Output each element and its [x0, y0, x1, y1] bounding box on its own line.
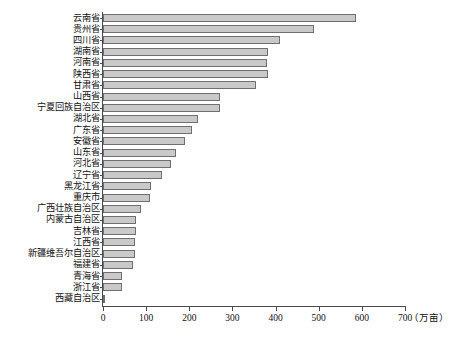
horizontal-bar-chart: 云南省贵州省四川省湖南省河南省陕西省甘肃省山西省宁夏回族自治区湖北省广东省安徽省… — [0, 0, 452, 344]
bar — [103, 205, 141, 213]
category-label: 甘肃省 — [73, 81, 100, 90]
category-label: 重庆市 — [73, 193, 100, 202]
bar — [103, 238, 135, 246]
x-axis-tick-label: 0 — [83, 313, 123, 323]
bar — [103, 126, 192, 134]
y-axis-tick — [100, 29, 103, 30]
y-axis-tick — [100, 242, 103, 243]
category-label: 河南省 — [73, 58, 100, 67]
x-axis-tick — [405, 307, 406, 311]
x-axis-tick — [362, 307, 363, 311]
category-label: 贵州省 — [73, 25, 100, 34]
x-axis-tick — [276, 307, 277, 311]
bar — [103, 137, 185, 145]
category-label: 湖南省 — [73, 47, 100, 56]
bar — [103, 81, 256, 89]
y-axis-tick — [100, 265, 103, 266]
y-axis-tick — [100, 97, 103, 98]
bar — [103, 182, 151, 190]
bar — [103, 104, 220, 112]
y-axis-tick — [100, 198, 103, 199]
y-axis-tick — [100, 18, 103, 19]
category-label: 浙江省 — [73, 283, 100, 292]
bar — [103, 70, 268, 78]
bar — [103, 14, 356, 22]
y-axis-tick — [100, 186, 103, 187]
y-axis-tick — [100, 299, 103, 300]
y-axis-tick — [100, 164, 103, 165]
x-axis-tick-label: 200 — [169, 313, 209, 323]
y-axis-tick — [100, 209, 103, 210]
bar — [103, 115, 198, 123]
category-label: 内蒙古自治区 — [46, 215, 100, 224]
x-axis-tick — [189, 307, 190, 311]
bar — [103, 227, 136, 235]
y-axis-tick — [100, 130, 103, 131]
x-axis-tick-label: 300 — [212, 313, 252, 323]
category-label: 湖北省 — [73, 114, 100, 123]
category-label: 山西省 — [73, 92, 100, 101]
y-axis-tick — [100, 141, 103, 142]
y-axis-tick — [100, 108, 103, 109]
y-axis-tick — [100, 287, 103, 288]
y-axis-tick — [100, 63, 103, 64]
x-axis-unit-label: （万亩） — [409, 313, 449, 323]
category-label: 新疆维吾尔自治区 — [28, 249, 100, 258]
bar — [103, 216, 136, 224]
y-axis-tick — [100, 175, 103, 176]
category-label: 山东省 — [73, 148, 100, 157]
y-axis-tick — [100, 231, 103, 232]
category-label: 福建省 — [73, 260, 100, 269]
category-label: 河北省 — [73, 159, 100, 168]
y-axis-tick — [100, 74, 103, 75]
bar — [103, 194, 150, 202]
category-label: 安徽省 — [73, 137, 100, 146]
bar — [103, 160, 171, 168]
y-axis-tick — [100, 153, 103, 154]
category-label: 广东省 — [73, 126, 100, 135]
y-axis-tick — [100, 40, 103, 41]
bar — [103, 272, 122, 280]
x-axis-tick-label: 400 — [256, 313, 296, 323]
bar — [103, 295, 105, 303]
x-axis-tick — [232, 307, 233, 311]
category-label: 江西省 — [73, 238, 100, 247]
x-axis-tick-label: 600 — [342, 313, 382, 323]
category-label: 宁夏回族自治区 — [37, 103, 100, 112]
plot-area — [103, 12, 405, 306]
y-axis-tick — [100, 220, 103, 221]
category-label: 黑龙江省 — [64, 182, 100, 191]
x-axis-tick-label: 500 — [299, 313, 339, 323]
bar — [103, 36, 280, 44]
y-axis-tick — [100, 276, 103, 277]
x-axis-tick — [319, 307, 320, 311]
bar — [103, 171, 162, 179]
y-axis-tick — [100, 119, 103, 120]
bar — [103, 283, 122, 291]
x-axis-line — [102, 306, 406, 307]
bar — [103, 250, 135, 258]
category-label: 陕西省 — [73, 70, 100, 79]
bar — [103, 93, 220, 101]
category-label: 吉林省 — [73, 227, 100, 236]
y-axis-tick — [100, 52, 103, 53]
bar — [103, 25, 314, 33]
y-axis-tick — [100, 254, 103, 255]
x-axis-tick-label: 100 — [126, 313, 166, 323]
category-label: 西藏自治区 — [55, 294, 100, 303]
bar — [103, 48, 268, 56]
bar — [103, 59, 267, 67]
bar — [103, 261, 133, 269]
category-label: 青海省 — [73, 272, 100, 281]
category-label: 云南省 — [73, 14, 100, 23]
x-axis-tick — [146, 307, 147, 311]
category-label: 广西壮族自治区 — [37, 204, 100, 213]
category-label: 四川省 — [73, 36, 100, 45]
y-axis-tick — [100, 85, 103, 86]
category-label: 辽宁省 — [73, 171, 100, 180]
x-axis-tick — [103, 307, 104, 311]
category-axis-labels: 云南省贵州省四川省湖南省河南省陕西省甘肃省山西省宁夏回族自治区湖北省广东省安徽省… — [0, 0, 100, 344]
bar — [103, 149, 176, 157]
